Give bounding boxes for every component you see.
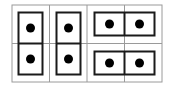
domino-vertical-1 [19, 13, 43, 75]
pip-icon [64, 55, 73, 64]
domino-horizontal-bottom [95, 52, 155, 75]
pip-icon [105, 20, 114, 29]
pip-icon [135, 20, 144, 29]
domino-tiling-diagram [0, 0, 171, 86]
pip-icon [105, 59, 114, 68]
pip-icon [26, 55, 35, 64]
pip-icon [26, 24, 35, 33]
domino-vertical-2 [57, 13, 81, 75]
domino-horizontal-top [95, 13, 155, 36]
pip-icon [64, 24, 73, 33]
pip-icon [135, 59, 144, 68]
